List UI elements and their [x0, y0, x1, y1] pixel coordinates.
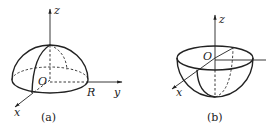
meridian-front-b: [197, 70, 215, 97]
x-axis-a: [15, 93, 33, 107]
y-label-a: y: [113, 86, 121, 99]
radius-label-a: R: [86, 86, 95, 99]
figure-b: z x O (b): [172, 13, 266, 124]
meridian-back-b: [215, 48, 233, 97]
caption-a: (a): [41, 111, 56, 124]
x-label-a: x: [14, 106, 21, 119]
z-label-a: z: [53, 4, 60, 17]
x-label-b: x: [176, 86, 183, 99]
caption-b: (b): [207, 111, 223, 124]
diagram-canvas: z y R x O (a) z: [0, 0, 266, 130]
z-label-b: z: [218, 13, 225, 26]
origin-label-a: O: [38, 75, 47, 88]
figure-a: z y R x O (a): [12, 4, 122, 124]
origin-label-b: O: [203, 50, 212, 63]
meridian-back-a: [50, 45, 67, 70]
radius-line-b: [215, 48, 233, 58]
